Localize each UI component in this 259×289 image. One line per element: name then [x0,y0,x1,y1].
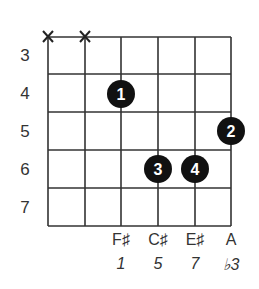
svg-text:4: 4 [191,161,200,178]
degree-label-string-5: 7 [180,255,210,273]
note-label-string-5: E♯ [180,231,210,249]
finger-dot-1: 1 [107,80,135,108]
svg-text:1: 1 [117,86,126,103]
fret-label-4: 4 [10,84,40,104]
fret-label-5: 5 [10,122,40,142]
fret-label-7: 7 [10,198,40,218]
finger-dot-2: 2 [217,117,245,145]
note-label-string-6: A [216,231,246,249]
degree-label-string-3: 1 [106,255,136,273]
fret-lines [48,37,231,226]
note-label-string-4: C♯ [143,231,173,249]
finger-dot-3: 3 [144,155,172,183]
degree-label-string-4: 5 [143,255,173,273]
fret-label-3: 3 [10,46,40,66]
note-label-string-3: F♯ [106,231,136,249]
fret-label-6: 6 [10,160,40,180]
svg-text:3: 3 [154,161,163,178]
svg-text:2: 2 [227,123,236,140]
finger-dot-4: 4 [181,155,209,183]
string-lines [48,37,231,226]
degree-label-string-6: ♭3 [216,255,246,274]
